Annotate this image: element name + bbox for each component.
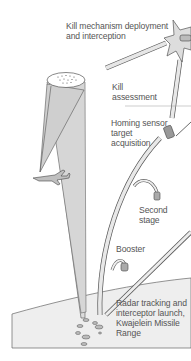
missile-intercept-diagram: Kill mechanism deployment and intercepti… xyxy=(0,0,191,361)
label-homing-sensor: Homing sensor target acquisition xyxy=(111,118,168,148)
label-second-stage: Second stage xyxy=(139,205,168,225)
label-booster: Booster xyxy=(116,244,145,254)
sensor-beam xyxy=(40,73,97,319)
label-kill-mechanism: Kill mechanism deployment and intercepti… xyxy=(66,21,168,41)
second-stage-drop xyxy=(134,181,160,200)
label-radar-launch: Radar tracking and interceptor launch, K… xyxy=(116,298,187,338)
label-kill-assessment: Kill assessment xyxy=(112,82,157,102)
booster-drop xyxy=(112,260,128,271)
